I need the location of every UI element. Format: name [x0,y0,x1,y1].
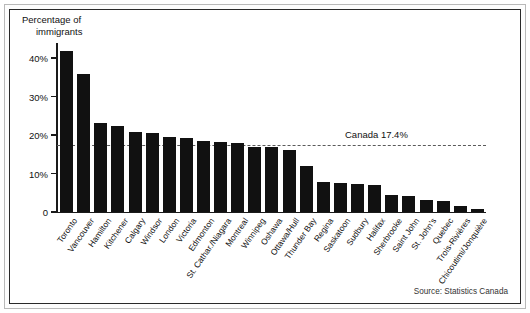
bar [283,150,296,212]
bar [60,51,73,212]
y-axis-tick-label: 20% [29,130,48,141]
y-axis-title: Percentage of immigrants Percentage of i… [22,14,82,37]
bar [146,133,159,212]
bar [214,142,227,212]
y-axis-tick-mark [51,211,57,213]
y-axis-tick-mark [51,134,57,136]
bar [317,182,330,212]
bar [471,209,484,212]
bar [248,147,261,212]
y-axis-tick-label: 30% [29,91,48,102]
y-axis-tick-mark [51,96,57,98]
source-note: Source: Statistics Canada [414,287,508,296]
y-axis-tick-label: 10% [29,168,48,179]
immigrants-bar-chart-figure: Percentage of immigrants Percentage of i… [0,0,530,313]
bar [77,74,90,212]
y-axis-tick-mark [51,57,57,59]
bar [402,196,415,212]
bar [265,147,278,212]
bar [163,137,176,212]
y-axis-tick-label: 0 [43,207,48,218]
bar [420,200,433,212]
bar [94,123,107,212]
bar [385,195,398,212]
bar [437,201,450,212]
y-axis-tick-label: 40% [29,53,48,64]
bar [231,143,244,212]
bar [368,185,381,212]
bar [111,126,124,212]
bar [454,206,467,212]
axis-title-line-1: Percentage of [22,14,81,25]
bar-series [58,44,486,212]
bar [351,184,364,212]
bar [129,132,142,212]
bar [197,141,210,212]
axis-title-line-2: immigrants [22,26,82,38]
y-axis-tick-mark [51,173,57,175]
bar [334,183,347,212]
bar [180,138,193,212]
bar [300,166,313,212]
